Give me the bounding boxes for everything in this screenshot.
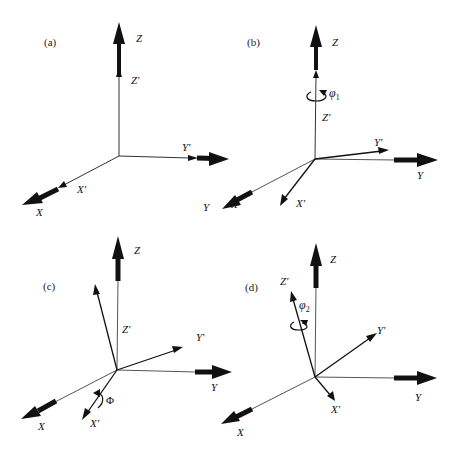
axis-label-y: Y: [415, 391, 423, 403]
x-axis-bold: [236, 409, 252, 417]
x-prime-axis-line: [284, 159, 315, 199]
x-prime-axis-line: [315, 377, 331, 396]
y-prime-axis-line: [315, 338, 370, 377]
y-arrowhead-icon: [417, 153, 438, 167]
rotation-angle-phi2: φ2: [299, 298, 310, 314]
axis-label-z: Z: [330, 253, 337, 265]
x-axis-line: [252, 377, 315, 409]
z-prime-arrowhead-icon: [290, 291, 297, 302]
y-arrowhead-icon: [212, 365, 232, 379]
axis-label-x: X: [37, 420, 46, 432]
axis-label-z-prime: Z': [322, 111, 331, 123]
axis-label-z: Z: [134, 244, 141, 256]
y-axis-line: [315, 159, 395, 160]
x-axis-bold: [237, 192, 252, 200]
x-axis-bold: [38, 189, 58, 199]
y-prime-axis-line: [315, 151, 382, 159]
x-prime-axis-line: [87, 370, 117, 413]
axis-label-x: X: [35, 206, 44, 218]
axis-label-x: X: [230, 198, 239, 210]
x-axis-line: [62, 156, 119, 186]
z-arrowhead-icon: [310, 243, 322, 266]
axis-label-y: Y: [211, 381, 219, 393]
axis-label-x-prime: X': [295, 197, 306, 209]
x-arrowhead-icon: [221, 411, 240, 424]
y-arrowhead-icon: [417, 371, 437, 385]
rotation-angle-phi1: φ1: [329, 86, 340, 102]
panel-d: [221, 243, 437, 424]
z-arrowhead-icon: [112, 236, 124, 259]
axis-label-z: Z: [136, 32, 143, 44]
axis-label-z: Z: [332, 36, 339, 48]
z-arrowhead-icon: [310, 25, 322, 47]
axis-label-x-prime: X': [330, 403, 341, 415]
y-axis-line: [119, 156, 190, 158]
x-arrowhead-icon: [22, 192, 43, 205]
panel-d-label: (d): [245, 281, 258, 294]
y-axis-line: [117, 370, 196, 372]
axis-label-y-prime: Y': [377, 324, 386, 336]
z-prime-arrowhead-icon: [93, 284, 100, 295]
z-prime-axis-line: [97, 292, 117, 370]
axis-label-y-prime: Y': [182, 141, 191, 153]
axis-label-x: X: [236, 426, 245, 438]
panel-c-label: (c): [43, 280, 56, 293]
y-prime-axis-line: [117, 350, 176, 370]
euler-angles-figure: (a) Z Z' Y' Y X' X (b) Z φ1 Z' Y' Y X' X: [0, 0, 460, 459]
axis-label-z-prime: Z': [122, 323, 131, 335]
y-prime-arrowhead-icon: [366, 333, 377, 342]
y-prime-arrowhead-icon: [188, 155, 198, 161]
z-axis-line: [315, 285, 316, 377]
z-axis-line: [117, 278, 118, 370]
x-prime-arrowhead-icon: [58, 181, 67, 188]
rotation-angle-Phi: Φ: [106, 394, 114, 406]
axis-label-y: Y: [417, 169, 425, 181]
x-axis-line: [250, 159, 315, 193]
axis-label-x-prime: X': [76, 183, 87, 195]
axis-label-z-prime: Z': [280, 275, 289, 287]
y-arrowhead-icon: [209, 152, 229, 166]
x-axis-bold: [38, 401, 56, 411]
panel-b-label: (b): [247, 36, 260, 49]
axis-label-y-prime: Y': [196, 331, 205, 343]
x-arrowhead-icon: [21, 406, 41, 419]
z-arrowhead-icon: [113, 22, 125, 44]
z-prime-arrowhead-icon: [313, 70, 319, 78]
axis-label-y: Y: [203, 201, 211, 213]
panel-a-label: (a): [44, 36, 57, 49]
y-axis-line: [315, 377, 395, 378]
y-prime-arrowhead-icon: [378, 147, 389, 154]
y-prime-arrowhead-icon: [172, 346, 183, 353]
panel-a: [22, 22, 229, 205]
rotation-arrowhead-icon: [93, 389, 100, 397]
axis-label-x-prime: X': [89, 417, 100, 429]
z-axis-line: [315, 75, 316, 159]
axis-label-y-prime: Y': [374, 136, 383, 148]
axis-label-z-prime: Z': [131, 74, 140, 86]
